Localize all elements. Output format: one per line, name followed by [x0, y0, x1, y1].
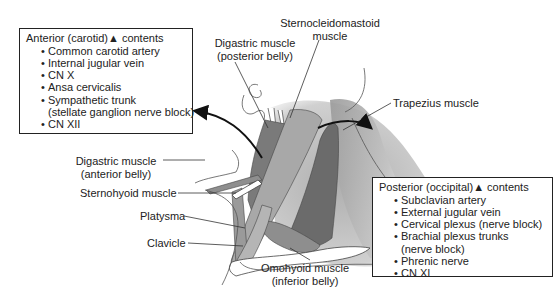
- triangle-icon: ▲: [473, 181, 484, 193]
- anterior-contents-list: Common carotid artery Internal jugular v…: [26, 45, 192, 131]
- anterior-triangle-contents-box: Anterior (carotid)▲ contents Common caro…: [19, 28, 193, 134]
- list-item: Ansa cervicalis: [26, 81, 192, 93]
- label-platysma: Platysma: [140, 210, 185, 223]
- list-item: Subclavian artery: [379, 194, 552, 206]
- label-sternohyoid: Sternohyoid muscle: [80, 187, 177, 200]
- list-item: Cervical plexus (nerve block): [379, 218, 552, 230]
- list-item: Phrenic nerve: [379, 255, 552, 267]
- label-digastric-anterior: Digastric muscle(anterior belly): [66, 155, 166, 180]
- anterior-arrow: [196, 111, 262, 158]
- label-clavicle: Clavicle: [147, 237, 186, 250]
- posterior-contents-list: Subclavian artery External jugular vein …: [379, 194, 552, 280]
- posterior-triangle-contents-box: Posterior (occipital)▲ contents Subclavi…: [372, 177, 553, 277]
- list-item: CN XII: [26, 118, 192, 130]
- triangle-icon: ▲: [108, 32, 119, 44]
- label-trapezius: Trapezius muscle: [393, 97, 479, 110]
- list-item: Internal jugular vein: [26, 57, 192, 69]
- anterior-box-title: Anterior (carotid)▲ contents: [26, 32, 192, 45]
- label-digastric-posterior: Digastric muscle(posterior belly): [205, 37, 305, 62]
- list-item: CN X: [26, 69, 192, 81]
- jaw-outline: [195, 150, 239, 183]
- list-item: Sympathetic trunk(stellate ganglion nerv…: [26, 94, 192, 119]
- leader-digastric-posterior: [235, 62, 268, 128]
- list-item: Brachial plexus trunks(nerve block): [379, 230, 552, 255]
- list-item: CN XI: [379, 267, 552, 279]
- list-item: Common carotid artery: [26, 45, 192, 57]
- label-omohyoid: Omohyoid muscle(inferior belly): [250, 262, 360, 287]
- list-item: External jugular vein: [379, 206, 552, 218]
- posterior-box-title: Posterior (occipital)▲ contents: [379, 181, 552, 194]
